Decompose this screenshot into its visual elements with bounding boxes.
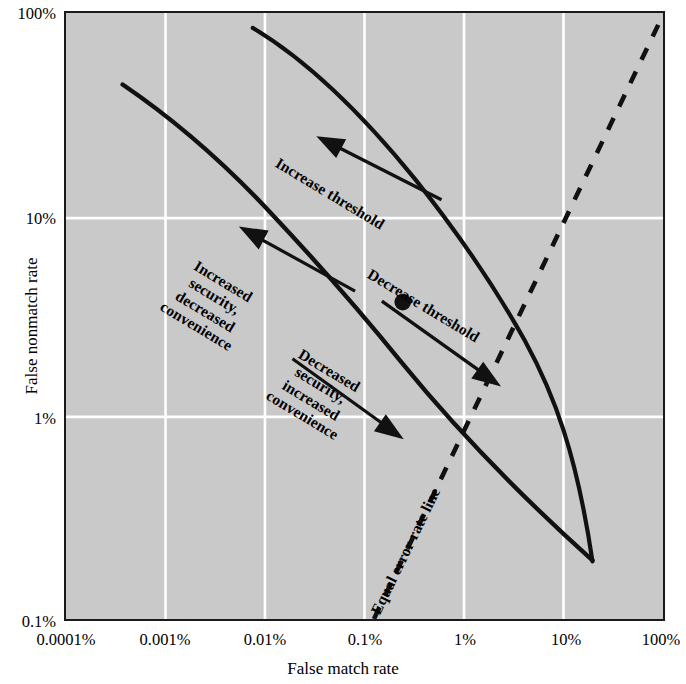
- x-tick-10: 10%: [551, 630, 581, 650]
- x-tick-001: 0.01%: [244, 630, 287, 650]
- x-tick-01: 0.1%: [348, 630, 382, 650]
- x-tick-00001: 0.0001%: [36, 630, 95, 650]
- x-tick-100: 100%: [642, 630, 681, 650]
- x-axis-tick-labels: 0.0001% 0.001% 0.01% 0.1% 1% 10% 100%: [0, 0, 686, 684]
- y-axis-title: False nonmatch rate: [22, 176, 42, 476]
- x-tick-1: 1%: [454, 630, 476, 650]
- x-axis-title: False match rate: [0, 659, 686, 679]
- figure-root: Increase threshold Decrease threshold In…: [0, 0, 686, 684]
- x-tick-0001: 0.001%: [140, 630, 191, 650]
